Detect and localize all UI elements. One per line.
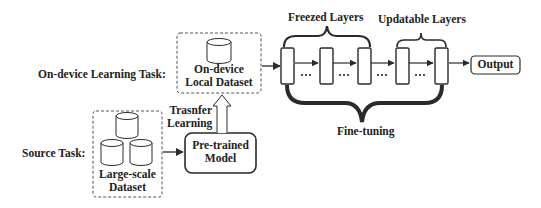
freezed-layers-label: Freezed Layers — [288, 11, 363, 24]
transfer-arrow-icon — [213, 95, 231, 133]
layer-3 — [358, 48, 371, 84]
database-cylinder-icon — [116, 113, 138, 139]
local-dataset-label: On-device Local Dataset — [177, 63, 261, 89]
finetuning-brace — [287, 85, 442, 122]
large-dataset-line2: Dataset — [93, 181, 162, 194]
pretrained-line1: Pre-trained — [185, 139, 256, 152]
layer-5 — [435, 48, 448, 84]
updatable-brace — [397, 33, 446, 47]
large-dataset-label: Large-scale Dataset — [93, 168, 162, 194]
layer-2 — [320, 48, 333, 84]
transfer-line2: Learning — [167, 117, 212, 130]
finetuning-label: Fine-tuning — [337, 125, 395, 138]
freezed-brace — [284, 26, 370, 47]
large-dataset-line1: Large-scale — [93, 168, 162, 181]
layer-1 — [281, 48, 294, 84]
local-dataset-line1: On-device — [177, 63, 261, 76]
transfer-learning-label: Trasnfer Learning — [167, 104, 212, 130]
database-cylinder-icon — [207, 39, 231, 64]
database-cylinder-icon — [101, 140, 123, 166]
output-label: Output — [471, 58, 520, 71]
source-task-label: Source Task: — [22, 147, 85, 160]
target-task-label: On-device Learning Task: — [38, 68, 166, 81]
local-dataset-line2: Local Dataset — [177, 76, 261, 89]
layer-4 — [396, 48, 409, 84]
pretrained-line2: Model — [185, 152, 256, 165]
database-cylinder-icon — [130, 140, 152, 166]
transfer-line1: Trasnfer — [167, 104, 212, 117]
updatable-layers-label: Updatable Layers — [378, 13, 466, 26]
network-layers — [281, 48, 448, 84]
diagram-canvas — [0, 0, 541, 208]
pretrained-model-label: Pre-trained Model — [185, 139, 256, 165]
